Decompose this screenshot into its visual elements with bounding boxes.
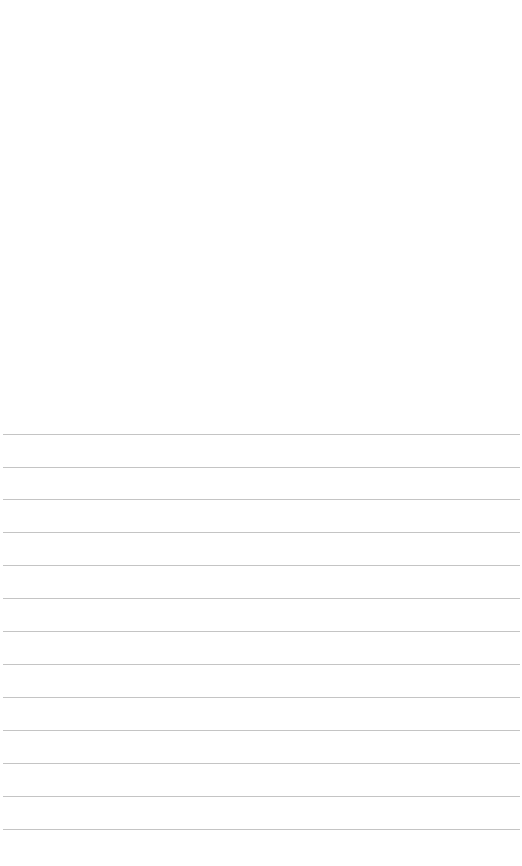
ruled-line <box>3 664 520 665</box>
ruled-line <box>3 763 520 764</box>
ruled-line <box>3 796 520 797</box>
ruled-line <box>3 467 520 468</box>
ruled-line <box>3 829 520 830</box>
ruled-line <box>3 499 520 500</box>
ruled-line <box>3 532 520 533</box>
ruled-line <box>3 730 520 731</box>
ruled-line <box>3 598 520 599</box>
ruled-line <box>3 697 520 698</box>
ruled-lines-area <box>0 0 522 866</box>
ruled-line <box>3 565 520 566</box>
ruled-line <box>3 434 520 435</box>
ruled-paper-page <box>0 0 522 866</box>
ruled-line <box>3 631 520 632</box>
